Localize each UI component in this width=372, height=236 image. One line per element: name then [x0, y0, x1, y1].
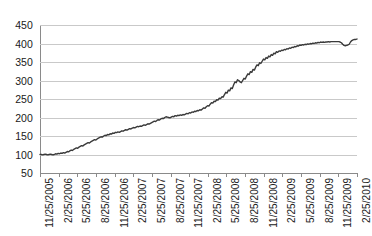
y-axis-tick-label: 300 — [15, 75, 33, 87]
x-axis-tick-mark — [115, 173, 116, 177]
x-axis-tick-label: 2/25/2009 — [286, 178, 297, 223]
x-axis-tick-mark — [320, 173, 321, 177]
x-axis-tick-label: 2/25/2008 — [212, 178, 223, 223]
series-line — [40, 25, 357, 173]
x-axis-tick-mark — [282, 173, 283, 177]
x-axis-tick-mark — [226, 173, 227, 177]
x-axis-tick-label: 5/25/2006 — [81, 178, 92, 223]
x-axis-tick-label: 11/25/2006 — [119, 178, 130, 228]
x-axis-tick-mark — [208, 173, 209, 177]
x-axis-tick-label: 8/25/2007 — [175, 178, 186, 223]
x-axis-tick-label: 5/25/2009 — [305, 178, 316, 223]
x-axis-tick-mark — [338, 173, 339, 177]
x-axis-tick-label: 2/25/2006 — [63, 178, 74, 223]
x-axis-tick-mark — [59, 173, 60, 177]
x-axis-tick-mark — [357, 173, 358, 177]
x-axis-tick-mark — [171, 173, 172, 177]
x-axis-tick-label: 11/25/2007 — [193, 178, 204, 228]
x-axis-tick-label: 2/25/2010 — [361, 178, 372, 223]
x-axis-tick-label: 11/25/2009 — [342, 178, 353, 228]
plot-area — [40, 25, 357, 173]
x-axis-tick-mark — [40, 173, 41, 177]
x-axis-tick-mark — [301, 173, 302, 177]
y-axis-tick-label: 200 — [15, 112, 33, 124]
x-axis-tick-label: 5/25/2007 — [156, 178, 167, 223]
y-axis-tick-label: 150 — [15, 130, 33, 142]
x-axis-tick-mark — [152, 173, 153, 177]
x-axis-tick-mark — [245, 173, 246, 177]
x-axis-tick-label: 8/25/2008 — [249, 178, 260, 223]
y-axis-tick-label: 400 — [15, 38, 33, 50]
x-axis-tick-mark — [96, 173, 97, 177]
y-axis-tick-label: 450 — [15, 19, 33, 31]
y-axis-labels: 45040035030025020015010050 — [0, 0, 33, 236]
x-axis-tick-label: 8/25/2006 — [100, 178, 111, 223]
x-axis-tick-label: 11/25/2008 — [268, 178, 279, 228]
x-axis-labels: 11/25/20052/25/20065/25/20068/25/200611/… — [40, 178, 358, 236]
y-axis-tick-label: 250 — [15, 93, 33, 105]
y-axis-tick-label: 100 — [15, 149, 33, 161]
x-axis-tick-mark — [264, 173, 265, 177]
y-axis-tick-label: 350 — [15, 56, 33, 68]
y-axis-tick-label: 50 — [21, 167, 33, 179]
x-axis-tick-label: 5/25/2008 — [230, 178, 241, 223]
x-axis-tick-mark — [77, 173, 78, 177]
x-axis-tick-label: 2/25/2007 — [137, 178, 148, 223]
x-axis-tick-mark — [189, 173, 190, 177]
x-axis-tick-label: 8/25/2009 — [324, 178, 335, 223]
line-chart: 45040035030025020015010050 11/25/20052/2… — [0, 0, 372, 236]
x-axis-tick-label: 11/25/2005 — [44, 178, 55, 228]
x-axis-tick-mark — [133, 173, 134, 177]
